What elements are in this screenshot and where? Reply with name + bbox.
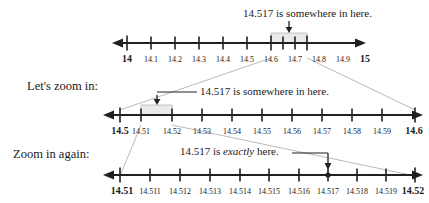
row-2-highlight-box: [141, 105, 172, 115]
row-3-annotation-emphasis: exactly: [223, 145, 254, 157]
row-1-number-line: [112, 21, 366, 51]
zoom-guide-lines-row1-row2: [120, 58, 415, 110]
row-2-annotation-pointer: [154, 92, 197, 105]
row-3-left-arrowhead: [103, 171, 114, 180]
row-3-annotation-suffix: here.: [254, 145, 278, 157]
row-1-tick-label-7: 14.7: [288, 55, 302, 64]
row-2-step-label: Let's zoom in:: [27, 79, 98, 94]
row-2-left-arrowhead: [103, 111, 114, 120]
row-3-tick-label-3: 14.513: [199, 187, 221, 196]
row-2-tick-label-7: 14.57: [313, 127, 331, 136]
row-1-tick-label-10: 15: [360, 53, 370, 64]
row-3-tick-label-10: 14.52: [402, 185, 425, 196]
row-3-tick-label-4: 14.514: [229, 187, 251, 196]
row-2-tick-label-4: 14.54: [223, 127, 241, 136]
row-3-tick-label-2: 14.512: [169, 187, 191, 196]
row-1-tick-label-1: 14.1: [144, 55, 158, 64]
row-1-annotation-pointer: [286, 21, 293, 33]
row-1-tick-label-9: 14.9: [336, 55, 350, 64]
row-3-annotation-prefix: 14.517 is: [180, 145, 223, 157]
row-2-tick-label-8: 14.58: [343, 127, 361, 136]
row-3-annotation-text: 14.517 is exactly here.: [180, 145, 279, 157]
number-line-zoom-figure: 14.517 is somewhere in here. 14 14.1 14.…: [0, 0, 429, 203]
row-2-tick-label-5: 14.55: [253, 127, 271, 136]
row-1-tick-label-4: 14.4: [216, 55, 230, 64]
row-1-tick-label-3: 14.3: [192, 55, 206, 64]
row-2-tick-label-0: 14.5: [111, 125, 129, 136]
row-2-tick-label-2: 14.52: [163, 127, 181, 136]
row-3-tick-label-5: 14.515: [258, 187, 280, 196]
row-3-right-arrowhead: [412, 171, 423, 180]
row-2-annotation-text: 14.517 is somewhere in here.: [200, 85, 329, 97]
row-3-tick-label-1: 14.511: [139, 187, 161, 196]
row-3-tick-label-6: 14.516: [288, 187, 310, 196]
row-3-tick-label-8: 14.518: [346, 187, 368, 196]
row-2-tick-label-9: 14.59: [373, 127, 391, 136]
row-2-tick-label-6: 14.56: [283, 127, 301, 136]
row-2-tick-label-10: 14.6: [405, 125, 423, 136]
row-3-tick-label-9: 14.519: [375, 187, 397, 196]
row-1-tick-label-0: 14: [122, 53, 132, 64]
row-3-step-label: Zoom in again:: [13, 147, 89, 162]
row-1-tick-label-5: 14.5: [240, 55, 254, 64]
row-2-right-arrowhead: [412, 111, 423, 120]
row-1-tick-label-2: 14.2: [168, 55, 182, 64]
row-1-highlight-box: [271, 33, 307, 43]
row-2-tick-label-1: 14.51: [132, 127, 150, 136]
figure-drawing-layer: [0, 0, 429, 203]
row-1-tick-label-8: 14.8: [312, 55, 326, 64]
row-3-exact-point-marker: [325, 172, 330, 177]
row-3-tick-label-0: 14.51: [111, 185, 134, 196]
row-1-right-arrowhead: [355, 39, 366, 48]
row-2-tick-label-3: 14.53: [193, 127, 211, 136]
row-3-tick-label-7: 14.517: [317, 187, 339, 196]
row-1-left-arrowhead: [112, 39, 123, 48]
row-3-annotation-pointer: [292, 153, 331, 170]
row-1-annotation-text: 14.517 is somewhere in here.: [243, 7, 372, 19]
row-1-tick-label-6: 14.6: [264, 55, 278, 64]
